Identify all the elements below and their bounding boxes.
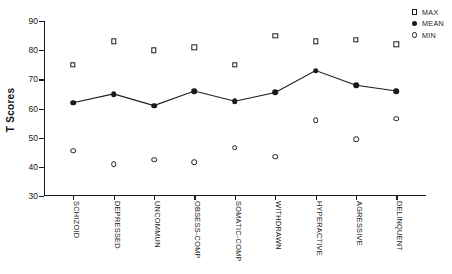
data-point-max — [111, 39, 116, 44]
y-axis-tick-mark — [39, 196, 44, 197]
data-point-max — [353, 37, 358, 42]
mean-series-line — [44, 21, 426, 196]
data-point-min — [192, 160, 198, 166]
x-axis-tick-mark — [235, 196, 236, 200]
x-axis-category-label-text: SCHIZOID — [72, 201, 81, 238]
data-point-max — [232, 62, 237, 67]
data-point-mean — [313, 68, 319, 74]
data-point-min — [394, 116, 400, 122]
x-axis-category-label-text: DEPRESSED — [112, 201, 121, 249]
x-axis-category-label-text: DELINQUENT — [395, 201, 404, 251]
legend-item: MAX — [410, 7, 444, 17]
x-axis-category-label-text: HYPERACTIVE — [314, 201, 323, 256]
data-point-max — [313, 39, 318, 44]
data-point-min — [272, 154, 278, 160]
data-point-mean — [353, 82, 359, 88]
y-axis-tick-label: 60 — [29, 104, 38, 114]
data-point-min — [353, 136, 359, 142]
x-axis-category-label-text: AGRESSIVE — [355, 201, 364, 246]
data-point-min — [232, 145, 238, 151]
x-axis-tick-mark — [356, 196, 357, 200]
y-axis-tick-label: 30 — [29, 191, 38, 201]
chart-figure: T Scores 30405060708090 SCHIZOIDDEPRESSE… — [0, 0, 452, 274]
x-axis-tick-mark — [396, 196, 397, 200]
y-axis-tick-label: 40 — [29, 162, 38, 172]
y-axis-title: T Scores — [2, 40, 18, 180]
x-axis-tick-mark — [194, 196, 195, 200]
x-axis-tick-mark — [316, 196, 317, 200]
y-axis-tick-label: 50 — [29, 133, 38, 143]
data-point-mean — [111, 91, 117, 97]
x-axis-tick-mark — [275, 196, 276, 200]
data-point-max — [394, 42, 399, 47]
x-axis-tick-mark — [114, 196, 115, 200]
y-axis-tick-label: 90 — [29, 16, 38, 26]
x-axis-category-label-text: OBSESS-COMP — [193, 201, 202, 259]
legend-item: MEAN — [410, 19, 444, 29]
data-point-mean — [394, 88, 400, 94]
data-point-max — [151, 47, 156, 52]
legend-item: MIN — [410, 30, 444, 40]
data-point-mean — [70, 100, 76, 106]
y-axis-tick-label: 80 — [29, 45, 38, 55]
data-point-mean — [272, 90, 278, 96]
open-square-icon — [412, 9, 417, 14]
data-point-max — [70, 62, 75, 67]
filled-circle-icon — [412, 21, 417, 26]
open-circle-icon — [412, 32, 417, 37]
chart-legend: MAXMEANMIN — [410, 7, 444, 42]
data-point-min — [313, 117, 319, 123]
data-point-min — [111, 161, 117, 167]
x-axis-tick-mark — [73, 196, 74, 200]
data-point-min — [151, 157, 157, 163]
legend-item-label: MEAN — [422, 19, 444, 28]
legend-swatch-open-square-icon — [410, 9, 420, 14]
legend-swatch-open-circle-icon — [410, 32, 420, 37]
data-point-mean — [151, 103, 157, 109]
data-point-mean — [192, 88, 198, 94]
data-point-min — [70, 148, 76, 154]
data-point-max — [192, 45, 197, 50]
x-axis-category-label-text: UNCOMMUN — [152, 201, 161, 248]
y-axis-title-text: T Scores — [5, 88, 16, 133]
data-point-max — [273, 33, 278, 38]
y-axis-tick-label: 70 — [29, 74, 38, 84]
legend-swatch-filled-circle-icon — [410, 21, 420, 26]
x-axis-category-label-text: SOMATIC-COMP — [233, 201, 242, 262]
legend-item-label: MAX — [422, 8, 438, 17]
plot-area: 30405060708090 SCHIZOIDDEPRESSEDUNCOMMUN… — [44, 21, 426, 196]
x-axis-category-label-text: WITHDRAWN — [274, 201, 283, 250]
x-axis-tick-mark — [154, 196, 155, 200]
data-point-mean — [232, 98, 238, 104]
legend-item-label: MIN — [422, 31, 436, 40]
